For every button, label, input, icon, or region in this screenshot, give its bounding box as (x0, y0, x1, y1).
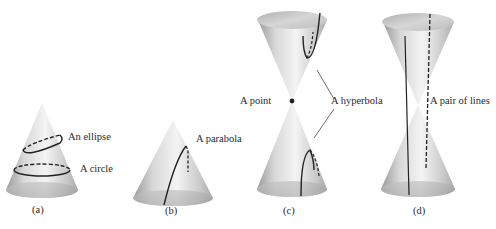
label-hyperbola: A hyperbola (331, 95, 383, 106)
caption-b: (b) (165, 205, 177, 216)
caption-d: (d) (413, 205, 425, 216)
label-circle: A circle (80, 163, 113, 174)
label-point: A point (240, 95, 271, 106)
conic-sections-diagram (0, 0, 496, 229)
caption-a: (a) (32, 204, 44, 215)
label-ellipse: An ellipse (68, 131, 111, 142)
label-pair-of-lines: A pair of lines (430, 95, 490, 106)
caption-c: (c) (283, 205, 295, 216)
label-parabola: A parabola (196, 133, 242, 144)
cone-a (6, 103, 78, 198)
